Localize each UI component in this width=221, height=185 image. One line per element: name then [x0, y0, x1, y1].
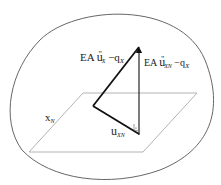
label-sub: XN [117, 132, 125, 138]
label-q-sub: X [185, 62, 189, 70]
diagram-canvas [0, 0, 221, 185]
label-primes: '' [161, 55, 164, 64]
label-sub: X [102, 58, 106, 64]
label-axis-xn: xN [45, 112, 55, 124]
label-force-left: EA u''X −qX [80, 51, 124, 65]
label-primes: '' [99, 50, 102, 59]
label-sub: XN [164, 63, 172, 69]
right-angle-marker [134, 124, 139, 131]
label-prefix: EA [80, 51, 94, 63]
label-force-right: EA u''XN −qX [144, 56, 189, 70]
right-angle-dot [135, 127, 136, 128]
label-sub: N [51, 118, 55, 124]
label-prefix: EA [144, 57, 157, 68]
label-displacement-uxn: uXN [111, 125, 125, 138]
label-q-sub: X [120, 57, 124, 65]
body-outline [10, 14, 213, 179]
